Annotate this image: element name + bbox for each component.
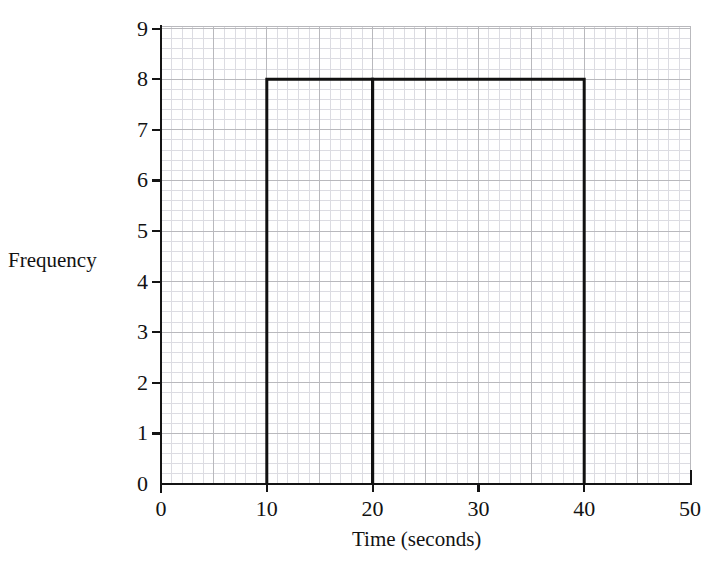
x-axis-tick-label: 10 (247, 498, 287, 520)
y-axis-tick-label: 8 (122, 68, 148, 90)
frequency-diagram: Frequency Time (seconds) 0123456789 0102… (0, 0, 713, 573)
x-axis-tick-label: 0 (141, 498, 181, 520)
y-axis-tick-label: 7 (122, 119, 148, 141)
x-axis-ticks (161, 484, 584, 493)
y-axis-tick-label: 5 (122, 220, 148, 242)
y-axis-title: Frequency (8, 250, 97, 271)
y-axis-tick-label: 0 (122, 473, 148, 495)
y-axis-ticks (152, 29, 161, 434)
y-axis-tick-label: 9 (122, 18, 148, 40)
y-axis-tick-label: 2 (122, 372, 148, 394)
y-axis-tick-label: 4 (122, 271, 148, 293)
x-axis-tick-label: 20 (353, 498, 393, 520)
y-axis-tick-label: 3 (122, 321, 148, 343)
x-axis-tick-label: 40 (564, 498, 604, 520)
x-axis-tick-label: 50 (670, 498, 710, 520)
x-axis-tick-label: 30 (458, 498, 498, 520)
x-axis-title: Time (seconds) (352, 529, 481, 550)
y-axis-tick-label: 6 (122, 169, 148, 191)
y-axis-tick-label: 1 (122, 422, 148, 444)
chart-canvas (0, 0, 713, 573)
grid-major (161, 26, 690, 484)
